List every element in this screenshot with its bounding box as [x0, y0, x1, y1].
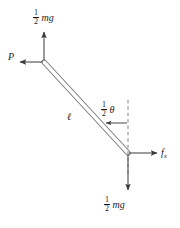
fraction-one-half: 1 2 [101, 101, 107, 119]
fraction-one-half: 1 2 [33, 9, 39, 27]
label-top-weight-term: mg [42, 13, 54, 23]
diagram-canvas [0, 0, 180, 228]
label-bottom-weight: 1 2 mg [104, 196, 125, 214]
label-top-weight: 1 2 mg [33, 9, 54, 27]
label-applied-force-p: P [8, 52, 14, 62]
label-angle-half-theta: 1 2 θ [101, 101, 114, 119]
free-body-diagram: 1 2 mg P ℓ 1 2 θ fx 1 2 mg [0, 0, 180, 228]
fraction-one-half: 1 2 [104, 196, 110, 214]
rod-shape [44, 62, 128, 153]
label-angle-term: θ [110, 105, 115, 115]
label-bottom-weight-term: mg [113, 200, 125, 210]
label-friction-force: fx [161, 148, 167, 158]
label-friction-subscript: x [164, 152, 167, 159]
label-rod-length: ℓ [67, 112, 71, 122]
